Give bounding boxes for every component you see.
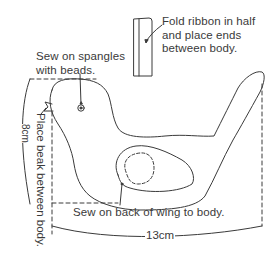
wing-stitch-line bbox=[125, 153, 154, 184]
ribbon-annotation: Fold ribbon in half and place ends betwe… bbox=[162, 15, 255, 56]
eye-bead bbox=[80, 107, 82, 109]
bird-body-outline bbox=[50, 72, 264, 210]
width-dimension-label: 13cm bbox=[145, 229, 175, 241]
wing-annotation: Sew on back of wing to body. bbox=[73, 206, 225, 220]
ribbon-shape bbox=[134, 18, 152, 76]
spangles-annotation: Sew on spangles with beads. bbox=[36, 50, 125, 77]
bird-pattern-diagram: Sew on spangles with beads. Fold ribbon … bbox=[0, 0, 270, 269]
wing-outline bbox=[116, 146, 194, 192]
ribbon-leader bbox=[146, 25, 162, 42]
wing-leader bbox=[120, 184, 122, 205]
height-dimension-label: 8cm bbox=[20, 124, 31, 143]
beak-annotation: Place beak between body. bbox=[35, 113, 47, 247]
